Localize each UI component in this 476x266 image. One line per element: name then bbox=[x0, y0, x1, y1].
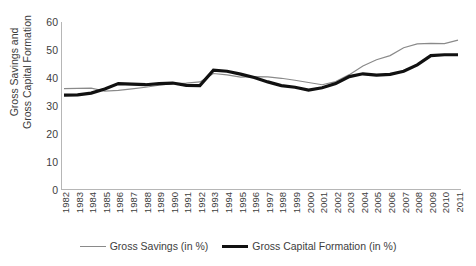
x-tick-label: 2009 bbox=[427, 192, 438, 232]
x-tick-label: 2001 bbox=[318, 192, 329, 232]
y-tick-label: 40 bbox=[36, 72, 58, 84]
legend-label: Gross Capital Formation (in %) bbox=[252, 240, 396, 252]
x-tick-label: 1983 bbox=[74, 192, 85, 232]
x-tick-label: 1984 bbox=[87, 192, 98, 232]
x-tick-label: 1987 bbox=[128, 192, 139, 232]
x-tick-label: 1991 bbox=[182, 192, 193, 232]
y-tick-label: 30 bbox=[36, 100, 58, 112]
y-tick-label: 0 bbox=[36, 184, 58, 196]
y-tick-label: 50 bbox=[36, 44, 58, 56]
line-chart: Gross Savings and Gross Capital Formatio… bbox=[0, 0, 476, 266]
x-tick-label: 1998 bbox=[277, 192, 288, 232]
x-tick-label: 2007 bbox=[400, 192, 411, 232]
x-tick-label: 2010 bbox=[440, 192, 451, 232]
x-tick-label: 1990 bbox=[169, 192, 180, 232]
x-tick-label: 1993 bbox=[209, 192, 220, 232]
chart-legend: Gross Savings (in %)Gross Capital Format… bbox=[0, 240, 476, 252]
x-tick-label: 2008 bbox=[413, 192, 424, 232]
legend-item[interactable]: Gross Capital Formation (in %) bbox=[222, 240, 396, 252]
x-tick-label: 1989 bbox=[155, 192, 166, 232]
y-axis-title-line-1: Gross Savings and bbox=[8, 0, 21, 152]
legend-line-swatch-icon bbox=[80, 246, 106, 247]
x-tick-label: 1986 bbox=[114, 192, 125, 232]
plot-area bbox=[61, 22, 461, 190]
x-tick-label: 1994 bbox=[223, 192, 234, 232]
x-tick-label: 2006 bbox=[386, 192, 397, 232]
x-tick-label: 2005 bbox=[372, 192, 383, 232]
series-lines bbox=[61, 22, 461, 190]
legend-label: Gross Savings (in %) bbox=[110, 240, 209, 252]
legend-line-swatch-icon bbox=[222, 245, 248, 248]
x-axis-tick-labels: 1982198319841985198619871988198919901991… bbox=[61, 192, 461, 236]
x-tick-label: 1995 bbox=[237, 192, 248, 232]
x-tick-label: 2002 bbox=[332, 192, 343, 232]
x-tick-label: 1988 bbox=[142, 192, 153, 232]
x-tick-label: 1992 bbox=[196, 192, 207, 232]
x-tick-label: 1996 bbox=[250, 192, 261, 232]
x-tick-label: 1997 bbox=[264, 192, 275, 232]
y-axis-tick-labels: 6050403020100 bbox=[32, 0, 58, 266]
legend-item[interactable]: Gross Savings (in %) bbox=[80, 240, 209, 252]
x-tick-label: 2011 bbox=[454, 192, 465, 232]
series-line-gross-capital-formation bbox=[64, 55, 458, 95]
x-tick-label: 1999 bbox=[291, 192, 302, 232]
y-tick-label: 20 bbox=[36, 128, 58, 140]
x-tick-label: 2004 bbox=[359, 192, 370, 232]
y-tick-label: 60 bbox=[36, 16, 58, 28]
x-tick-label: 2003 bbox=[345, 192, 356, 232]
x-tick-label: 1982 bbox=[60, 192, 71, 232]
x-tick-label: 1985 bbox=[101, 192, 112, 232]
x-tick-label: 2000 bbox=[305, 192, 316, 232]
y-tick-label: 10 bbox=[36, 156, 58, 168]
